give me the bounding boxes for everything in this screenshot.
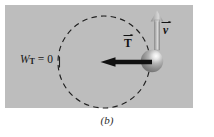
work-equals-zero: = 0 [35, 53, 53, 65]
velocity-vector-label: v [163, 25, 168, 37]
figure-root: WT = 0 T v (b) [0, 0, 214, 137]
vector-arrow-icon [123, 35, 132, 36]
vector-arrow-icon [161, 22, 170, 23]
tension-symbol: T [124, 37, 132, 49]
velocity-symbol-wrap: v [163, 25, 168, 37]
tension-vector-label: T [124, 38, 132, 50]
figure-caption: (b) [0, 114, 214, 126]
velocity-symbol: v [163, 24, 168, 36]
tension-symbol-wrap: T [124, 38, 132, 50]
work-symbol: W [20, 53, 30, 65]
work-zero-label: WT = 0 [20, 54, 53, 66]
velocity-vector [151, 11, 164, 51]
